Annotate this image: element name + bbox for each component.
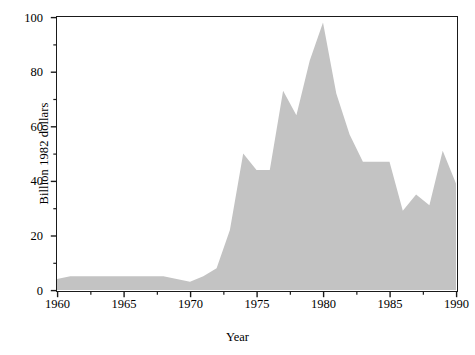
- x-axis-tick-labels: 1960196519701975198019851990: [0, 297, 475, 317]
- x-tick-label-1965: 1965: [112, 297, 137, 312]
- x-tick-label-1985: 1985: [378, 297, 403, 312]
- plot-area: [56, 16, 458, 292]
- x-tick-label-1975: 1975: [245, 297, 270, 312]
- x-tick-label-1960: 1960: [45, 297, 70, 312]
- chart-figure: Billion 1982 dollars 020406080100 196019…: [0, 0, 475, 355]
- y-tick-label-60: 60: [31, 119, 44, 134]
- x-tick-label-1980: 1980: [311, 297, 336, 312]
- x-tick-label-1990: 1990: [444, 297, 469, 312]
- y-tick-label-0: 0: [37, 283, 43, 298]
- y-tick-label-80: 80: [31, 65, 44, 80]
- y-tick-label-40: 40: [31, 174, 44, 189]
- y-tick-label-100: 100: [24, 10, 43, 25]
- x-tick-label-1970: 1970: [178, 297, 203, 312]
- x-axis-title: Year: [0, 330, 475, 345]
- y-tick-label-20: 20: [31, 229, 44, 244]
- area-series-billion-1982-dollars: [57, 17, 456, 290]
